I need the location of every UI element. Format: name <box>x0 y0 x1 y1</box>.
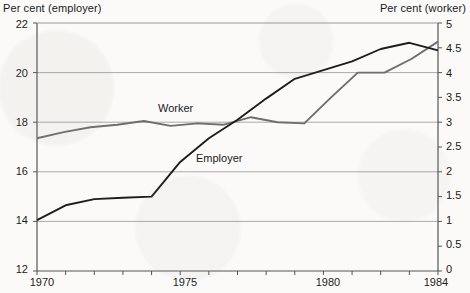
series-line-employer <box>37 43 438 220</box>
chart-figure: Per cent (employer) Per cent (worker) 22… <box>0 0 470 293</box>
axis-ticks <box>33 23 442 275</box>
series-line-worker <box>37 42 438 139</box>
plot-area <box>0 0 470 293</box>
